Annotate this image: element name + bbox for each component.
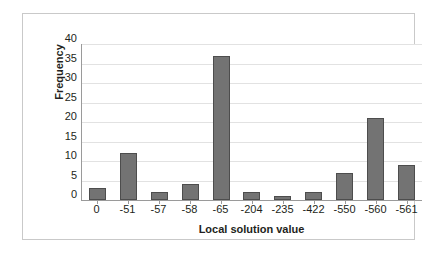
bar-slot xyxy=(82,44,113,200)
x-tick-label: -561 xyxy=(391,203,422,215)
bar[interactable] xyxy=(213,56,230,200)
bar-slot xyxy=(329,44,360,200)
bar-slot xyxy=(267,44,298,200)
x-axis-title: Local solution value xyxy=(81,223,422,235)
x-tick-label: -58 xyxy=(174,203,205,215)
bar[interactable] xyxy=(151,192,168,200)
chart-frame: Frequency 40 35 30 25 20 15 10 5 0 0-51-… xyxy=(22,13,415,240)
bar-slot xyxy=(144,44,175,200)
y-tick-label: 20 xyxy=(51,110,77,122)
bar[interactable] xyxy=(182,184,199,200)
x-tick-label: -57 xyxy=(143,203,174,215)
y-axis-tick-labels: 40 35 30 25 20 15 10 5 0 xyxy=(51,38,77,206)
bar[interactable] xyxy=(398,165,415,200)
x-tick-label: -560 xyxy=(360,203,391,215)
x-tick-label: -65 xyxy=(205,203,236,215)
x-tick-label: -51 xyxy=(112,203,143,215)
y-tick-label: 10 xyxy=(51,149,77,161)
y-tick-label: 25 xyxy=(51,91,77,103)
y-tick-label: 5 xyxy=(51,169,77,181)
bar[interactable] xyxy=(367,118,384,200)
y-tick-label: 40 xyxy=(51,32,77,44)
y-tick-label: 15 xyxy=(51,130,77,142)
x-axis-tick-labels: 0-51-57-58-65-204-235-422-550-560-561 xyxy=(81,203,422,215)
bar-slot xyxy=(175,44,206,200)
bar-slot xyxy=(391,44,422,200)
bar-slot xyxy=(298,44,329,200)
plot-area xyxy=(81,44,422,201)
x-tick-label: 0 xyxy=(81,203,112,215)
y-tick-label: 30 xyxy=(51,71,77,83)
y-tick-label: 0 xyxy=(51,188,77,200)
bar-slot xyxy=(237,44,268,200)
bar[interactable] xyxy=(120,153,137,200)
x-tick-label: -550 xyxy=(329,203,360,215)
bar-slot xyxy=(113,44,144,200)
bar[interactable] xyxy=(89,188,106,200)
bar-slot xyxy=(360,44,391,200)
bar[interactable] xyxy=(305,192,322,200)
bar-slot xyxy=(206,44,237,200)
x-tick-label: -235 xyxy=(267,203,298,215)
figure: Frequency 40 35 30 25 20 15 10 5 0 0-51-… xyxy=(0,0,437,255)
bar-series xyxy=(82,44,422,200)
y-tick-label: 35 xyxy=(51,52,77,64)
bar[interactable] xyxy=(336,173,353,200)
bar[interactable] xyxy=(243,192,260,200)
x-tick-label: -422 xyxy=(298,203,329,215)
x-tick-label: -204 xyxy=(236,203,267,215)
